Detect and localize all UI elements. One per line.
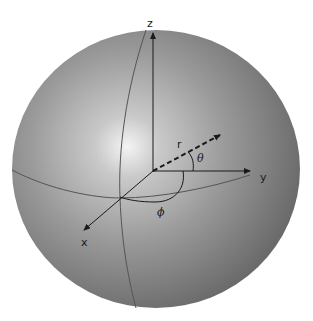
x-axis-label: x bbox=[81, 236, 88, 249]
phi-label: ϕ bbox=[157, 206, 165, 219]
y-axis-label: y bbox=[260, 171, 267, 184]
z-axis-label: z bbox=[147, 17, 153, 30]
radius-label: r bbox=[177, 138, 182, 151]
theta-label: θ bbox=[197, 152, 204, 165]
spherical-coordinates-diagram: z y x r θ ϕ bbox=[0, 0, 313, 321]
